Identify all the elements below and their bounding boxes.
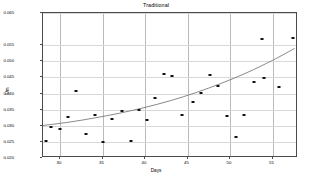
data-point [145,119,148,121]
data-point [162,73,165,75]
data-point [171,75,174,77]
y-tick-label: 0.030 [3,122,14,127]
chart-container: Traditional Um Days 0.0650.0550.0500.045… [0,0,312,181]
data-point [278,86,281,88]
y-tick-label: 0.025 [3,138,14,143]
data-point [226,115,229,117]
data-point [243,114,246,116]
data-point [130,140,133,142]
data-point [138,109,141,111]
x-tick-mark [272,157,273,159]
data-point [261,38,264,40]
y-tick-label: 0.055 [3,42,14,47]
x-tick-mark [187,157,188,159]
data-point [191,101,194,103]
x-tick-mark [229,157,230,159]
fitted-curve [43,13,297,157]
data-point [59,128,62,130]
data-point [102,141,105,143]
x-tick-mark [59,157,60,159]
data-point [234,136,237,138]
x-axis-label: Days [0,168,312,173]
y-tick-label: 0.035 [3,106,14,111]
y-tick-label: 0.040 [3,90,14,95]
data-point [84,133,87,135]
data-point [291,37,294,39]
data-point [180,114,183,116]
x-tick-label: 30 [57,160,62,165]
plot-area [42,12,297,157]
data-point [66,116,69,118]
data-point [217,85,220,87]
y-tick-mark [40,157,42,158]
x-tick-label: 45 [184,160,189,165]
data-point [93,114,96,116]
data-point [252,81,255,83]
data-point [200,92,203,94]
data-point [263,77,266,79]
data-point [208,74,211,76]
chart-title: Traditional [0,2,312,8]
data-point [110,118,113,120]
x-tick-mark [102,157,103,159]
y-tick-label: 0.045 [3,74,14,79]
x-tick-label: 35 [99,160,104,165]
data-point [154,97,157,99]
data-point [44,140,47,142]
y-tick-label: 0.050 [3,58,14,63]
y-tick-label: 0.020 [3,155,14,160]
y-tick-label: 0.065 [3,10,14,15]
data-point [75,90,78,92]
data-point [49,126,52,128]
x-tick-label: 40 [142,160,147,165]
x-tick-label: 55 [269,160,274,165]
x-tick-mark [144,157,145,159]
data-point [121,110,124,112]
x-tick-label: 50 [227,160,232,165]
